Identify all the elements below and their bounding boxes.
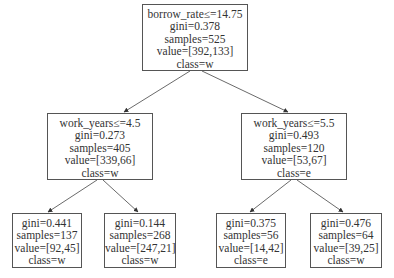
node-gini: gini=0.493 — [242, 129, 346, 141]
node-class: class=w — [143, 58, 247, 70]
leaf-left-right: gini=0.144 samples=268 value=[247,21] cl… — [104, 213, 176, 268]
node-gini: gini=0.375 — [217, 217, 285, 229]
node-class: class=e — [217, 254, 285, 266]
node-condition: borrow_rate≤=14.75 — [143, 8, 247, 20]
node-class: class=w — [105, 254, 175, 266]
edge-left-lr — [103, 180, 138, 212]
leaf-right-right: gini=0.476 samples=64 value=[39,25] clas… — [310, 213, 382, 268]
node-class: class=w — [13, 254, 81, 266]
node-value: value=[39,25] — [311, 242, 381, 254]
node-condition: work_years≤=4.5 — [48, 117, 152, 129]
edge-right-rl — [250, 180, 291, 212]
node-value: value=[339,66] — [48, 154, 152, 166]
leaf-right-left: gini=0.375 samples=56 value=[14,42] clas… — [216, 213, 286, 268]
node-samples: samples=525 — [143, 33, 247, 45]
node-value: value=[247,21] — [105, 242, 175, 254]
node-left: work_years≤=4.5 gini=0.273 samples=405 v… — [47, 113, 153, 180]
node-class: class=w — [48, 167, 152, 179]
node-value: value=[53,67] — [242, 154, 346, 166]
leaf-left-left: gini=0.441 samples=137 value=[92,45] cla… — [12, 213, 82, 268]
node-samples: samples=405 — [48, 142, 152, 154]
edge-root-right — [202, 71, 288, 112]
node-value: value=[14,42] — [217, 242, 285, 254]
node-gini: gini=0.378 — [143, 20, 247, 32]
node-value: value=[392,133] — [143, 45, 247, 57]
node-condition: work_years≤=5.5 — [242, 117, 346, 129]
node-gini: gini=0.144 — [105, 217, 175, 229]
node-gini: gini=0.441 — [13, 217, 81, 229]
edge-right-rr — [297, 180, 343, 212]
node-samples: samples=120 — [242, 142, 346, 154]
node-samples: samples=268 — [105, 229, 175, 241]
node-gini: gini=0.476 — [311, 217, 381, 229]
node-class: class=e — [242, 167, 346, 179]
node-samples: samples=56 — [217, 229, 285, 241]
node-root: borrow_rate≤=14.75 gini=0.378 samples=52… — [142, 4, 248, 71]
edge-left-ll — [48, 180, 97, 212]
edge-root-left — [124, 71, 190, 112]
node-value: value=[92,45] — [13, 242, 81, 254]
node-class: class=w — [311, 254, 381, 266]
node-samples: samples=64 — [311, 229, 381, 241]
node-right: work_years≤=5.5 gini=0.493 samples=120 v… — [241, 113, 347, 180]
node-gini: gini=0.273 — [48, 129, 152, 141]
node-samples: samples=137 — [13, 229, 81, 241]
